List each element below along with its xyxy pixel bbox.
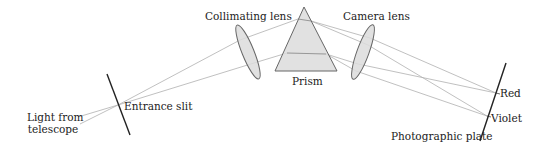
dispersed-rays (311, 21, 496, 116)
camera-lens (347, 23, 378, 82)
collimating-lens (232, 23, 265, 81)
camera-lens-label: Camera lens (343, 10, 410, 22)
light-source-label-line1: Light from (27, 111, 79, 123)
light-source-label-line2: telescope (27, 123, 79, 135)
light-source-label: Light from telescope (27, 111, 79, 135)
red-label: Red (500, 87, 521, 99)
violet-label: Violet (491, 112, 522, 124)
collimating-lens-label: Collimating lens (205, 10, 292, 22)
entrance-slit-label: Entrance slit (124, 100, 192, 112)
prism-label: Prism (292, 75, 323, 87)
photographic-plate-label: Photographic plate (391, 130, 493, 142)
